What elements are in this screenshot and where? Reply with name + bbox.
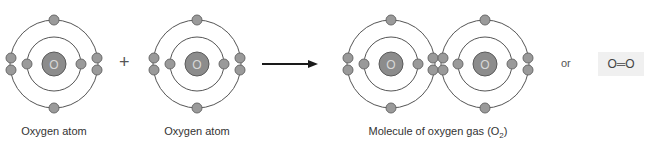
electron	[149, 53, 159, 63]
electron	[523, 65, 533, 75]
plus-sign: +	[119, 52, 130, 73]
molecule-label-text: Molecule of oxygen gas (O	[369, 125, 500, 137]
electron	[386, 15, 396, 25]
molecule-label: Molecule of oxygen gas (O2)	[369, 125, 508, 140]
electron	[22, 59, 32, 69]
diagram-canvas: O O O	[0, 0, 650, 147]
electron	[359, 59, 369, 69]
electron	[235, 53, 245, 63]
electron	[6, 53, 16, 63]
structural-formula-box: O═O	[598, 52, 644, 76]
electron	[386, 103, 396, 113]
oxygen-atom-2: O	[149, 15, 245, 113]
electron	[480, 103, 490, 113]
electron	[453, 59, 463, 69]
structural-formula: O═O	[607, 57, 634, 71]
electron	[219, 59, 229, 69]
oxygen-molecule: O O	[343, 15, 533, 113]
nucleus-symbol: O	[192, 58, 201, 72]
electron	[438, 53, 448, 63]
nucleus-symbol: O	[386, 58, 395, 72]
electron	[192, 15, 202, 25]
electron	[149, 65, 159, 75]
electron	[438, 65, 448, 75]
electron	[428, 53, 438, 63]
nucleus-symbol: O	[480, 58, 489, 72]
electron	[480, 15, 490, 25]
electron	[49, 15, 59, 25]
electron	[92, 53, 102, 63]
electron	[507, 59, 517, 69]
atom-1-label: Oxygen atom	[21, 125, 86, 137]
electron	[92, 65, 102, 75]
electron	[523, 53, 533, 63]
shared-electrons	[428, 53, 448, 75]
atom-2-label: Oxygen atom	[164, 125, 229, 137]
electron	[343, 53, 353, 63]
electron	[76, 59, 86, 69]
electron	[192, 103, 202, 113]
nucleus-symbol: O	[49, 58, 58, 72]
electron	[428, 65, 438, 75]
electron	[165, 59, 175, 69]
or-text: or	[561, 57, 571, 69]
yields-arrow-icon	[262, 60, 318, 68]
electron	[235, 65, 245, 75]
electron	[413, 59, 423, 69]
oxygen-atom-1: O	[6, 15, 102, 113]
electron	[343, 65, 353, 75]
molecule-label-close: )	[504, 125, 508, 137]
electron	[6, 65, 16, 75]
electron	[49, 103, 59, 113]
